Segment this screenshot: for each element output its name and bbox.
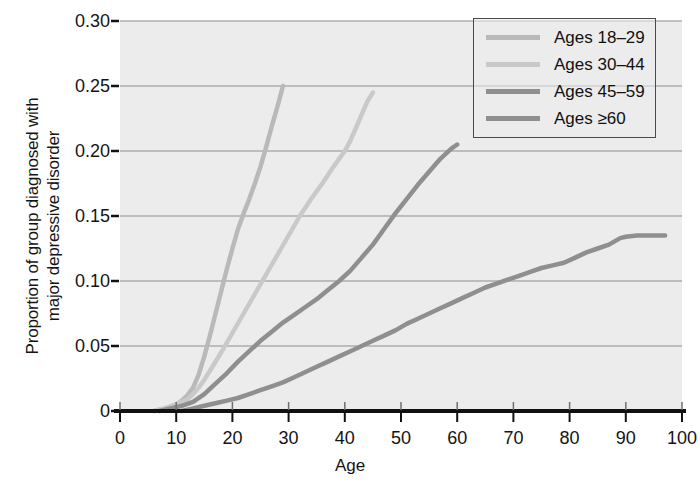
x-axis-tick-label: 40	[315, 429, 375, 447]
chart-figure: Proportion of group diagnosed with major…	[0, 0, 700, 492]
x-axis-tick-label: 10	[146, 429, 206, 447]
legend-item: Ages 18–29	[474, 24, 645, 51]
legend-label: Ages 30–44	[554, 55, 645, 75]
x-axis-tick-label: 90	[596, 429, 656, 447]
legend-label: Ages 45–59	[554, 82, 645, 102]
legend-swatch-icon	[486, 89, 540, 94]
legend-item: Ages 45–59	[474, 78, 645, 105]
x-axis-tick-label: 60	[427, 429, 487, 447]
legend-swatch-icon	[486, 116, 540, 121]
x-axis-tick-label: 80	[540, 429, 600, 447]
x-axis-tick-label: 0	[90, 429, 150, 447]
legend-item: Ages 30–44	[474, 51, 645, 78]
legend-label: Ages 18–29	[554, 28, 645, 48]
x-axis-tick-label: 100	[652, 429, 700, 447]
legend-swatch-icon	[486, 62, 540, 67]
legend-label: Ages ≥60	[554, 109, 626, 129]
x-axis-tick-label: 30	[259, 429, 319, 447]
legend-swatch-icon	[486, 35, 540, 40]
legend: Ages 18–29Ages 30–44Ages 45–59Ages ≥60	[473, 18, 656, 138]
x-axis-label: Age	[0, 456, 700, 476]
x-axis-tick-label: 70	[483, 429, 543, 447]
x-axis-tick-label: 20	[202, 429, 262, 447]
x-axis-tick-label: 50	[371, 429, 431, 447]
legend-item: Ages ≥60	[474, 105, 645, 132]
